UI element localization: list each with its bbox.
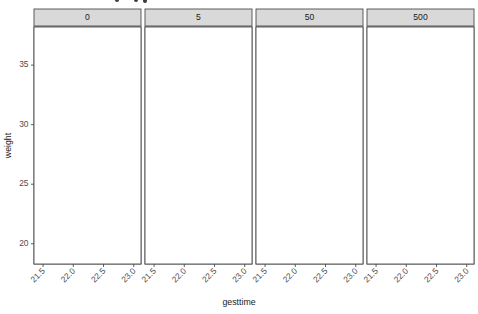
x-axis-tick-label: 23.0	[452, 266, 471, 285]
y-axis-tick-label: 20	[19, 238, 29, 248]
facet-strip-label-5: 5	[196, 12, 201, 22]
x-axis-tick-label: 23.0	[341, 266, 360, 285]
x-axis-tick-label: 22.0	[392, 266, 411, 285]
x-axis-tick-label: 23.0	[230, 266, 249, 285]
plot-canvas: 021.522.022.523.0521.522.022.523.05021.5…	[0, 0, 478, 314]
facet-panel-0: 021.522.022.523.0	[28, 9, 141, 284]
y-axis-tick-label: 30	[19, 119, 29, 129]
panel-border-0	[34, 27, 141, 264]
y-axis-title: weight	[3, 132, 13, 159]
cropped-top-mark	[115, 0, 119, 2]
x-axis-tick-label: 22.5	[200, 266, 219, 285]
facet-panel-5: 521.522.022.523.0	[139, 9, 252, 284]
faceted-scatter-plot: 021.522.022.523.0521.522.022.523.05021.5…	[0, 0, 478, 314]
x-axis-title: gesttime	[222, 297, 255, 307]
x-axis-tick-label: 21.5	[139, 266, 158, 285]
panel-border-500	[367, 27, 474, 264]
x-axis-tick-label: 21.5	[361, 266, 380, 285]
facet-strip-label-500: 500	[413, 12, 428, 22]
y-axis-tick-label: 25	[19, 178, 29, 188]
facet-strip-label-0: 0	[85, 12, 90, 22]
x-axis-tick-label: 21.5	[250, 266, 269, 285]
x-axis-tick-label: 22.5	[89, 266, 108, 285]
x-axis-tick-label: 22.5	[311, 266, 330, 285]
x-axis-tick-label: 22.0	[281, 266, 300, 285]
y-axis-tick-label: 35	[19, 59, 29, 69]
x-axis-tick-label: 22.0	[170, 266, 189, 285]
panel-border-5	[145, 27, 252, 264]
x-axis-tick-label: 23.0	[119, 266, 138, 285]
x-axis-tick-label: 22.0	[59, 266, 78, 285]
x-axis-tick-label: 21.5	[28, 266, 47, 285]
facet-panel-50: 5021.522.022.523.0	[250, 9, 363, 284]
cropped-top-mark	[143, 0, 147, 3]
x-axis-tick-label: 22.5	[422, 266, 441, 285]
panel-border-50	[256, 27, 363, 264]
facet-panel-500: 50021.522.022.523.0	[361, 9, 474, 284]
facet-strip-label-50: 50	[305, 12, 315, 22]
cropped-top-mark	[134, 0, 138, 2]
